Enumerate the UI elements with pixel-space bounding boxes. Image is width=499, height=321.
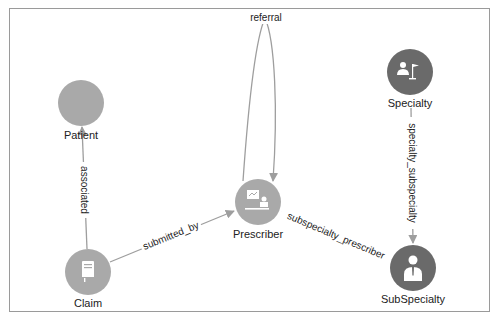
node-specialty[interactable]: Specialty (387, 49, 433, 109)
node-label-specialty: Specialty (388, 97, 433, 109)
node-label-claim: Claim (74, 297, 102, 309)
edge-referral[interactable]: referral (243, 11, 286, 181)
edge-associated[interactable]: associated (78, 127, 91, 249)
node-patient[interactable]: Patient (58, 80, 104, 141)
node-claim[interactable]: Claim (65, 249, 111, 309)
node-prescriber[interactable]: Prescriber (233, 179, 283, 240)
edge-label-referral: referral (250, 12, 282, 23)
edge-label-specialty-subspecialty: specialty_subspecialty (407, 123, 418, 223)
edge-submitted-by[interactable]: submitted_by (110, 211, 234, 262)
node-patient-circle[interactable] (58, 80, 104, 126)
node-label-prescriber: Prescriber (233, 228, 283, 240)
edge-referral-line[interactable] (243, 18, 275, 181)
edge-label-submitted-by: submitted_by (141, 219, 200, 251)
node-label-patient: Patient (64, 129, 98, 141)
schema-graph[interactable]: referral associated submitted_by special… (0, 0, 499, 321)
node-label-subspecialty: SubSpecialty (381, 293, 446, 305)
edge-specialty-subspecialty[interactable]: specialty_subspecialty (406, 108, 419, 243)
edge-subspecialty-prescriber[interactable]: subspecialty_prescriber (278, 206, 394, 265)
edge-label-associated: associated (79, 166, 90, 214)
node-prescriber-circle[interactable] (235, 179, 281, 225)
node-specialty-circle[interactable] (387, 49, 433, 95)
edge-label-subspecialty-prescriber: subspecialty_prescriber (286, 210, 388, 261)
